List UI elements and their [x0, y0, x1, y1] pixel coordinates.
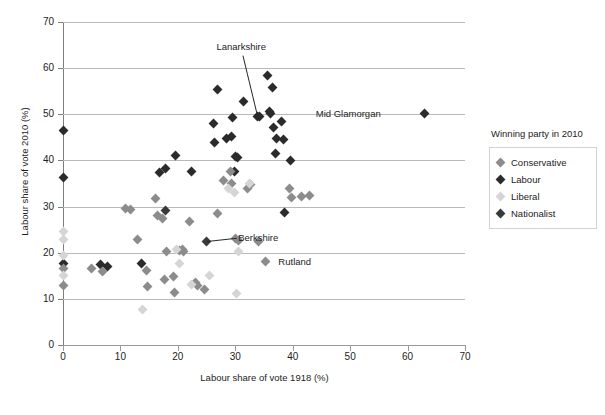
- y-tick-label: 30: [28, 202, 54, 212]
- legend-item-label: Labour: [511, 174, 541, 185]
- annotation-label: Rutland: [278, 256, 311, 267]
- x-tick-label: 30: [220, 352, 250, 362]
- x-tick-label: 60: [393, 352, 423, 362]
- legend-marker-icon: [496, 175, 506, 185]
- y-tick-mark: [58, 22, 63, 23]
- legend-marker-icon: [496, 158, 506, 168]
- x-axis-title: Labour share of vote 1918 (%): [63, 372, 466, 383]
- x-tick-label: 40: [278, 352, 308, 362]
- legend-item-nationalist[interactable]: Nationalist: [497, 205, 590, 222]
- gridline-y: [63, 22, 465, 23]
- x-tick-label: 0: [48, 352, 78, 362]
- legend-item-labour[interactable]: Labour: [497, 171, 590, 188]
- x-axis-line: [63, 345, 466, 346]
- legend-item-conservative[interactable]: Conservative: [497, 154, 590, 171]
- legend-item-liberal[interactable]: Liberal: [497, 188, 590, 205]
- gridline-y: [63, 68, 465, 69]
- chart-page: 010203040506070 010203040506070 Lanarksh…: [0, 0, 605, 415]
- y-tick-label: 0: [28, 340, 54, 350]
- legend: Winning party in 2010 ConservativeLabour…: [489, 128, 597, 229]
- gridline-y: [63, 160, 465, 161]
- legend-item-label: Nationalist: [511, 208, 555, 219]
- y-tick-label: 50: [28, 109, 54, 119]
- annotation-label: Mid Glamorgan: [316, 108, 408, 119]
- x-tick-label: 70: [450, 352, 480, 362]
- y-axis-title: Labour share of vote 2010 (%): [19, 82, 30, 262]
- y-tick-mark: [58, 299, 63, 300]
- x-tick-label: 10: [105, 352, 135, 362]
- legend-item-label: Liberal: [511, 191, 540, 202]
- y-tick-mark: [58, 114, 63, 115]
- legend-item-label: Conservative: [511, 157, 566, 168]
- legend-box: ConservativeLabourLiberalNationalist: [489, 147, 597, 229]
- y-tick-label: 20: [28, 248, 54, 258]
- legend-marker-icon: [496, 192, 506, 202]
- y-tick-label: 40: [28, 155, 54, 165]
- plot-area: [63, 22, 465, 345]
- x-tick-label: 20: [163, 352, 193, 362]
- y-tick-label: 10: [28, 294, 54, 304]
- y-tick-mark: [58, 207, 63, 208]
- gridline-y: [63, 299, 465, 300]
- y-tick-mark: [58, 68, 63, 69]
- y-tick-mark: [58, 160, 63, 161]
- gridline-y: [63, 253, 465, 254]
- legend-marker-icon: [496, 209, 506, 219]
- y-tick-label: 60: [28, 63, 54, 73]
- x-tick-label: 50: [335, 352, 365, 362]
- annotation-label: Lanarkshire: [216, 41, 308, 52]
- annotation-label: Berkshire: [238, 232, 278, 243]
- legend-title: Winning party in 2010: [489, 128, 597, 139]
- y-tick-label: 70: [28, 17, 54, 27]
